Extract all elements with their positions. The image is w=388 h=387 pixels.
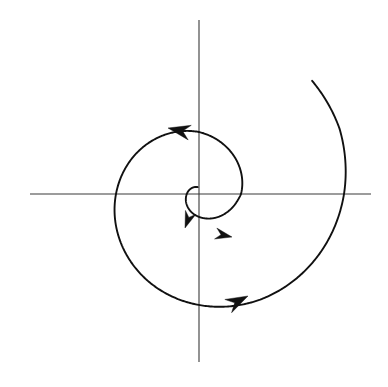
spiral-diagram-svg (0, 0, 388, 387)
figure-canvas (0, 0, 388, 387)
